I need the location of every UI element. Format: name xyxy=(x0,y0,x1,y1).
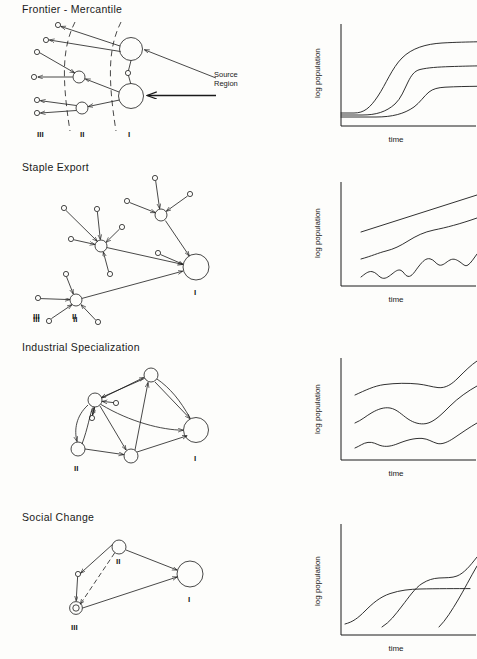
region-label-I: I xyxy=(194,288,196,297)
region-label-III-bottom: III xyxy=(33,315,40,324)
figure-page: Frontier - Mercantile xyxy=(0,0,477,659)
panel-title-staple-export: Staple Export xyxy=(22,161,89,173)
region-label-II: II xyxy=(116,557,120,566)
chart-frontier-mercantile: log population time xyxy=(300,10,477,150)
diagram-staple-export: I III II xyxy=(0,158,300,330)
chart1-xlabel: time xyxy=(388,135,404,144)
panel-title-social-change: Social Change xyxy=(22,511,94,523)
source-region-line2: Region xyxy=(214,79,238,88)
region-label-III: III xyxy=(37,130,44,139)
diagram-frontier-mercantile: III II I Source Region xyxy=(0,0,300,150)
chart1-ylabel: log population xyxy=(313,48,322,98)
chart4-ylabel: log population xyxy=(313,556,322,606)
panel-title-frontier-mercantile: Frontier - Mercantile xyxy=(22,3,122,15)
region-label-III: III xyxy=(71,623,78,632)
region-label-II: II xyxy=(80,130,84,139)
chart3-ylabel: log population xyxy=(313,384,322,434)
region-label-I: I xyxy=(188,595,190,604)
region-label-II-bottom: II xyxy=(73,315,77,324)
panel-staple-export: Staple Export xyxy=(0,158,300,330)
chart-industrial-specialization: log population time xyxy=(300,350,477,480)
source-region-line1: Source xyxy=(214,70,238,79)
panel-industrial-specialization: Industrial Specialization xyxy=(0,338,300,488)
region-label-I: I xyxy=(194,454,196,463)
chart3-xlabel: time xyxy=(388,469,404,478)
panel-frontier-mercantile: Frontier - Mercantile xyxy=(0,0,300,150)
region-labels-staple-export: III II xyxy=(0,308,300,328)
panel-title-industrial-specialization: Industrial Specialization xyxy=(22,341,140,353)
chart2-ylabel: log population xyxy=(313,208,322,258)
region-label-I: I xyxy=(128,130,130,139)
chart2-xlabel: time xyxy=(388,295,404,304)
region-label-II: II xyxy=(74,464,78,473)
diagram-industrial-specialization: II I xyxy=(0,338,300,488)
chart4-xlabel: time xyxy=(388,644,404,653)
panel-social-change: Social Change II III I xyxy=(0,498,300,659)
chart-staple-export: log population time xyxy=(300,170,477,310)
chart-social-change: log population time xyxy=(300,510,477,659)
